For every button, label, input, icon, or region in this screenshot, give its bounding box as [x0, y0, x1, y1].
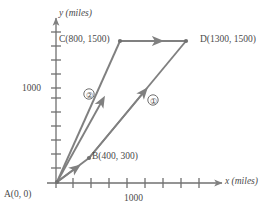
path-2-badge-label: ② [86, 91, 93, 100]
point-label-d: D(1300, 1500) [200, 35, 256, 45]
y-axis-tick-label-1000: 1000 [22, 84, 41, 94]
path-1-badge-label: ① [150, 97, 157, 106]
point-label-c: C(800, 1500) [59, 35, 110, 45]
x-axis-tick-label-1000: 1000 [124, 194, 143, 204]
path-2-direction-arrow [57, 101, 102, 182]
point-marker-c [118, 39, 122, 43]
x-axis-title: x (miles) [225, 177, 258, 187]
point-label-a: A(0, 0) [4, 190, 31, 200]
point-markers [55, 39, 188, 184]
path-1-segment-b-to-d [89, 41, 186, 158]
point-marker-d [184, 39, 188, 43]
point-marker-a [55, 180, 59, 184]
path-1-upper-direction-arrow [89, 92, 144, 158]
y-axis-title: y (miles) [59, 9, 92, 19]
point-marker-b [87, 156, 91, 160]
point-label-b: B(400, 300) [92, 152, 138, 162]
